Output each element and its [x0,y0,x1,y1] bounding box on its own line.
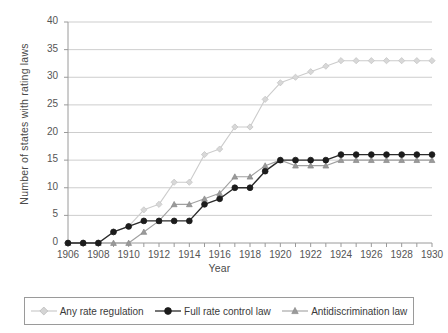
series-full-rate-control-law [65,152,435,246]
legend-item-any-rate-regulation: Any rate regulation [31,305,144,317]
legend-swatch-full-rate-control-law [155,305,181,317]
y-tick-label: 10 [28,181,58,192]
y-tick-label: 0 [28,236,58,247]
legend-item-antidiscrimination-law: Antidiscrimination law [282,305,407,317]
y-tick-label: 20 [28,126,58,137]
y-axis-tickmarks [64,22,68,243]
legend-item-full-rate-control-law: Full rate control law [155,305,271,317]
y-tick-label: 40 [28,15,58,26]
chart-legend: Any rate regulation Full rate control la… [24,297,414,325]
y-tick-label: 15 [28,153,58,164]
x-axis-title: Year [0,262,439,274]
legend-label: Full rate control law [184,306,271,317]
data-series-layer [65,58,435,247]
series-antidiscrimination-law [65,157,435,245]
series-any-rate-regulation [65,58,435,247]
x-axis-tickmarks [68,243,432,247]
y-tick-label: 5 [28,208,58,219]
y-tick-label: 25 [28,98,58,109]
x-tick-label: 1930 [412,249,448,260]
legend-label: Any rate regulation [60,306,144,317]
legend-swatch-antidiscrimination-law [282,305,308,317]
legend-swatch-any-rate-regulation [31,305,57,317]
y-tick-label: 30 [28,70,58,81]
legend-label: Antidiscrimination law [311,306,407,317]
y-tick-label: 35 [28,43,58,54]
